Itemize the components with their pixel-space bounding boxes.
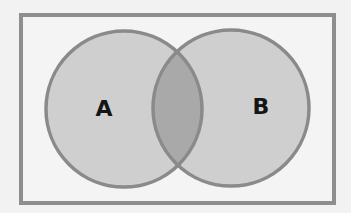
set-b-label: B (253, 94, 270, 119)
set-a-label: A (95, 96, 112, 121)
venn-diagram: A B (0, 0, 351, 213)
